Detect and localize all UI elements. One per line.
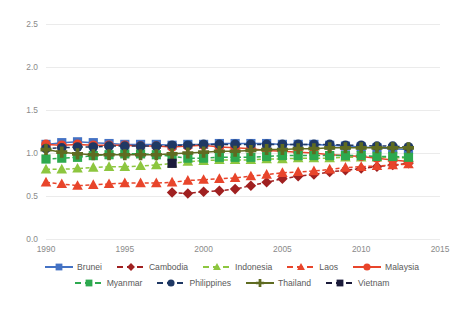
legend-swatch-square-icon bbox=[74, 277, 104, 289]
data-point-marker bbox=[56, 264, 63, 271]
legend-label: Malaysia bbox=[385, 261, 419, 273]
legend-swatch-square-icon bbox=[44, 261, 74, 273]
legend-item-brunei[interactable]: Brunei bbox=[44, 261, 102, 273]
x-axis-tick-label: 2005 bbox=[273, 244, 292, 254]
data-point-marker bbox=[214, 173, 225, 183]
legend-swatch-triangle-icon bbox=[202, 261, 232, 273]
legend-label: Thailand bbox=[278, 277, 311, 289]
legend-swatch-circle-icon bbox=[352, 261, 382, 273]
chart-legend: BruneiCambodiaIndonesiaLaosMalaysia Myan… bbox=[0, 259, 463, 307]
legend-row-1: BruneiCambodiaIndonesiaLaosMalaysia bbox=[0, 259, 463, 275]
legend-item-myanmar[interactable]: Myanmar bbox=[74, 277, 143, 289]
data-point-marker bbox=[198, 186, 209, 197]
y-axis-tick-label: 2.5 bbox=[26, 19, 38, 29]
data-point-marker bbox=[56, 178, 67, 188]
y-axis-tick-label: 0.5 bbox=[26, 191, 38, 201]
legend-item-indonesia[interactable]: Indonesia bbox=[202, 261, 272, 273]
data-point-marker bbox=[246, 171, 257, 181]
x-axis-tick-label: 2000 bbox=[194, 244, 213, 254]
legend-label: Myanmar bbox=[107, 277, 143, 289]
data-point-marker bbox=[56, 164, 67, 174]
legend-item-philippines[interactable]: Philippines bbox=[156, 277, 231, 289]
x-axis-tick-label: 2010 bbox=[352, 244, 371, 254]
y-axis-tick-label: 2.0 bbox=[26, 62, 38, 72]
data-point-marker bbox=[41, 154, 50, 163]
legend-label: Cambodia bbox=[149, 261, 188, 273]
data-point-marker bbox=[293, 166, 304, 176]
series-vietnam bbox=[167, 159, 176, 168]
y-axis-tick-label: 1.0 bbox=[26, 148, 38, 158]
y-axis-tick-label: 1.5 bbox=[26, 105, 38, 115]
data-point-marker bbox=[230, 184, 241, 195]
legend-swatch-diamond-icon bbox=[116, 261, 146, 273]
data-point-marker bbox=[324, 164, 335, 174]
data-point-marker bbox=[363, 263, 370, 270]
data-point-marker bbox=[256, 279, 264, 287]
series-laos bbox=[41, 159, 414, 190]
series-line bbox=[46, 157, 408, 169]
legend-label: Laos bbox=[319, 261, 338, 273]
legend-label: Philippines bbox=[189, 277, 231, 289]
legend-item-vietnam[interactable]: Vietnam bbox=[325, 277, 389, 289]
data-point-marker bbox=[88, 179, 99, 189]
line-chart-plot: 0.00.51.01.52.02.51990199520002005201020… bbox=[0, 0, 463, 260]
legend-label: Vietnam bbox=[358, 277, 389, 289]
legend-swatch-square-icon bbox=[325, 277, 355, 289]
data-point-marker bbox=[183, 188, 194, 199]
legend-row-2: MyanmarPhilippinesThailandVietnam bbox=[0, 275, 463, 291]
series-line bbox=[46, 148, 408, 155]
data-point-marker bbox=[404, 153, 413, 162]
x-axis-tick-label: 1990 bbox=[37, 244, 56, 254]
data-point-marker bbox=[214, 186, 225, 197]
legend-item-malaysia[interactable]: Malaysia bbox=[352, 261, 419, 273]
legend-label: Indonesia bbox=[235, 261, 272, 273]
legend-swatch-triangle-icon bbox=[286, 261, 316, 273]
data-point-marker bbox=[135, 178, 146, 188]
data-point-marker bbox=[337, 280, 344, 287]
legend-swatch-plus-icon bbox=[245, 277, 275, 289]
data-point-marker bbox=[135, 160, 146, 170]
data-point-marker bbox=[127, 263, 135, 271]
data-point-marker bbox=[167, 177, 178, 187]
x-axis-tick-label: 1995 bbox=[115, 244, 134, 254]
data-point-marker bbox=[88, 162, 99, 172]
data-point-marker bbox=[167, 159, 176, 168]
data-point-marker bbox=[246, 180, 257, 191]
x-axis-tick-label: 2015 bbox=[431, 244, 450, 254]
legend-item-thailand[interactable]: Thailand bbox=[245, 277, 311, 289]
data-point-marker bbox=[168, 279, 175, 286]
legend-item-laos[interactable]: Laos bbox=[286, 261, 338, 273]
legend-swatch-circle-icon bbox=[156, 277, 186, 289]
chart-container: 0.00.51.01.52.02.51990199520002005201020… bbox=[0, 0, 463, 311]
data-point-marker bbox=[41, 177, 52, 187]
y-axis-tick-label: 0.0 bbox=[26, 234, 38, 244]
data-point-marker bbox=[85, 280, 92, 287]
legend-item-cambodia[interactable]: Cambodia bbox=[116, 261, 188, 273]
legend-label: Brunei bbox=[77, 261, 102, 273]
